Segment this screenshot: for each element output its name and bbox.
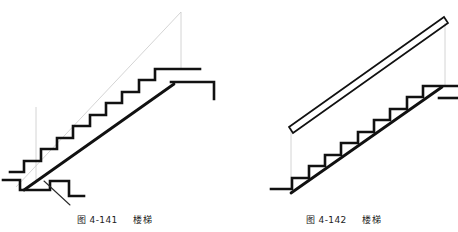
base-lower-shelf-left bbox=[3, 180, 84, 196]
figure-stair-without-handrail: 图 4-141 楼梯 bbox=[0, 0, 229, 232]
figure-number-right: 图 4-142 bbox=[306, 215, 347, 225]
figure-stair-with-handrail: 图 4-142 楼梯 bbox=[229, 0, 458, 232]
top-landing-left bbox=[171, 82, 214, 99]
drawing-page: 图 4-141 楼梯 bbox=[0, 0, 458, 232]
stringer-right bbox=[291, 87, 442, 193]
figure-label-left: 楼梯 bbox=[133, 215, 152, 225]
stringer-left bbox=[24, 84, 174, 190]
stair-profile-right bbox=[271, 86, 458, 189]
handrail-right bbox=[289, 17, 448, 133]
handrail-body-icon bbox=[289, 17, 448, 133]
figure-caption-left: 图 4-141 楼梯 bbox=[0, 214, 229, 226]
leader-pointer-icon-left bbox=[44, 181, 70, 205]
stair-steps-right bbox=[271, 86, 458, 189]
stair-drawing-left bbox=[0, 0, 229, 214]
figure-label-right: 楼梯 bbox=[362, 215, 381, 225]
leader-line-left bbox=[44, 181, 70, 205]
stair-drawing-right bbox=[229, 0, 458, 214]
stringer-line-left bbox=[24, 84, 174, 190]
figure-caption-right: 图 4-142 楼梯 bbox=[229, 214, 458, 226]
figure-number-left: 图 4-141 bbox=[77, 215, 118, 225]
base-detail-left bbox=[3, 180, 84, 196]
landing-return-left bbox=[171, 82, 214, 99]
stringer-line-right bbox=[291, 87, 442, 193]
construction-lines-right bbox=[291, 23, 445, 189]
